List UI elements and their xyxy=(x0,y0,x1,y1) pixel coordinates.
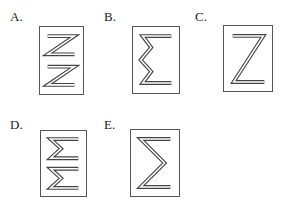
option-e-figure[interactable] xyxy=(130,129,180,197)
option-b-figure[interactable] xyxy=(132,26,180,94)
option-b-label: B. xyxy=(104,10,116,23)
option-d-figure[interactable] xyxy=(40,130,87,197)
zigzag-sigma-icon xyxy=(133,27,179,93)
option-c-label: C. xyxy=(195,10,207,23)
option-c-figure[interactable] xyxy=(223,25,273,92)
option-a-label: A. xyxy=(10,10,23,23)
double-z-icon xyxy=(40,27,83,94)
option-d-label: D. xyxy=(10,118,23,131)
sigma-icon xyxy=(131,130,179,196)
z-shape-icon xyxy=(224,26,272,91)
option-e-label: E. xyxy=(104,118,115,131)
option-a-figure[interactable] xyxy=(39,26,84,95)
double-sigma-icon xyxy=(41,131,86,196)
